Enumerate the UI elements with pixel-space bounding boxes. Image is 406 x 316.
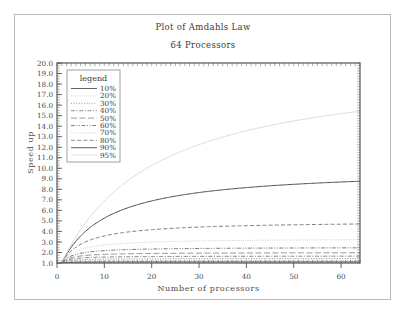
- x-tick-label: 0: [55, 272, 60, 281]
- x-axis-tick-labels: 0102030405060: [55, 272, 346, 281]
- y-tick-label: 4.0: [42, 227, 54, 236]
- y-tick-label: 13.0: [37, 132, 53, 141]
- y-tick-label: 8.0: [42, 185, 54, 194]
- y-tick-label: 3.0: [42, 238, 54, 247]
- y-tick-label: 7.0: [42, 195, 54, 204]
- y-tick-label: 11.0: [37, 153, 53, 162]
- y-tick-label: 5.0: [42, 216, 54, 225]
- curve-70pct: [62, 240, 360, 263]
- y-tick-label: 10.0: [37, 164, 53, 173]
- x-tick-label: 60: [336, 272, 346, 281]
- y-tick-label: 14.0: [37, 122, 53, 131]
- y-tick-label: 18.0: [37, 80, 53, 89]
- y-axis-tick-labels: 1.02.03.04.05.06.07.08.09.010.011.012.01…: [37, 59, 53, 268]
- x-tick-label: 20: [147, 272, 157, 281]
- curve-80pct: [62, 224, 360, 263]
- plot-area: 1.02.03.04.05.06.07.08.09.010.011.012.01…: [0, 0, 406, 316]
- x-tick-label: 10: [100, 272, 110, 281]
- y-tick-label: 2.0: [42, 248, 54, 257]
- y-tick-label: 17.0: [37, 90, 53, 99]
- chart-root: Plot of Amdahls Law 64 Processors Speed …: [0, 0, 406, 316]
- y-tick-label: 6.0: [42, 206, 54, 215]
- legend-title: legend: [80, 74, 107, 83]
- y-tick-label: 15.0: [37, 111, 53, 120]
- y-tick-label: 20.0: [37, 59, 53, 68]
- x-tick-label: 50: [289, 272, 299, 281]
- y-tick-label: 1.0: [42, 259, 54, 268]
- y-tick-label: 9.0: [42, 174, 54, 183]
- x-tick-label: 30: [194, 272, 204, 281]
- x-tick-label: 40: [242, 272, 252, 281]
- y-tick-label: 19.0: [37, 69, 53, 78]
- curve-60pct: [62, 248, 360, 263]
- y-tick-label: 16.0: [37, 101, 53, 110]
- legend-label-95pct: 95%: [100, 151, 116, 160]
- y-tick-label: 12.0: [37, 143, 53, 152]
- legend[interactable]: legend 10%20%30%40%50%60%70%80%90%95%: [67, 70, 120, 162]
